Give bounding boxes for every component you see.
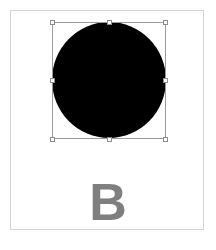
resize-handle-top-center[interactable] — [107, 20, 112, 25]
resize-handle-top-right[interactable] — [163, 20, 168, 25]
resize-handle-bottom-right[interactable] — [163, 137, 168, 142]
resize-handle-top-left[interactable] — [50, 20, 55, 25]
resize-handle-middle-left[interactable] — [50, 78, 55, 83]
selection-bounding-box — [52, 22, 166, 139]
resize-handle-middle-right[interactable] — [163, 78, 168, 83]
resize-handle-bottom-center[interactable] — [107, 137, 112, 142]
option-label: B — [0, 176, 216, 228]
resize-handle-bottom-left[interactable] — [50, 137, 55, 142]
